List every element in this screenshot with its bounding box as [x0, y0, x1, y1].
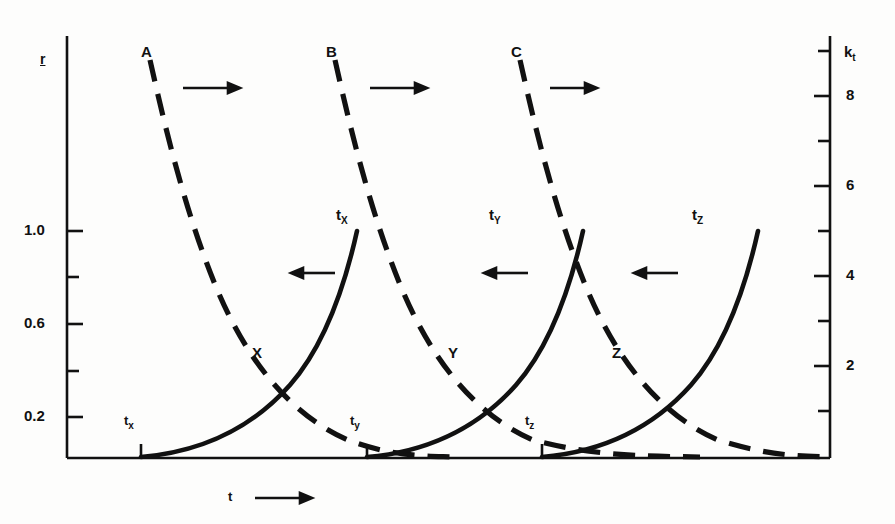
chart-svg [0, 0, 895, 524]
annotation-Y: Y [448, 345, 458, 360]
right-axis-ticks [814, 51, 830, 411]
left-axis-title: r [40, 52, 45, 66]
bottom-tick-label-tx-sub: x [128, 420, 134, 431]
curve-label-tZ-sub: Z [697, 215, 703, 226]
left-tick-label-3: 0.2 [24, 408, 45, 423]
arrow-right-B [370, 83, 427, 93]
dashed-curves-group [150, 60, 828, 457]
arrow-right-A [183, 83, 240, 93]
annotation-Z: Z [612, 345, 621, 360]
curve-C-path [520, 60, 828, 457]
bottom-tick-label-ty-sub: y [354, 420, 360, 431]
curve-label-tX-sub: X [341, 215, 348, 226]
arrow-right-C [550, 83, 597, 93]
curve-label-tY-sub: Y [494, 215, 501, 226]
curve-tX-path [141, 231, 357, 457]
bottom-tick-label-tz-sub: z [529, 420, 534, 431]
arrow-left-tZ [634, 268, 678, 278]
curve-label-B: B [326, 44, 337, 59]
right-tick-label-6: 6 [846, 177, 854, 192]
bottom-tick-label-tz: tz [525, 414, 534, 431]
arrow-left-tY [484, 268, 528, 278]
arrow-x-axis-title [255, 493, 312, 503]
right-tick-label-2: 2 [846, 357, 854, 372]
curve-A-path [150, 60, 452, 457]
curve-label-tX: tX [336, 207, 348, 226]
arrow-left-tX [291, 268, 335, 278]
bottom-tick-label-ty: ty [350, 414, 360, 431]
bottom-tick-label-tx: tx [124, 414, 134, 431]
left-tick-label-2: 0.6 [24, 315, 45, 330]
right-tick-label-8: 8 [846, 87, 854, 102]
right-arrows-group [183, 83, 597, 93]
left-tick-label-1: 1.0 [24, 222, 45, 237]
left-axis-ticks [67, 231, 83, 417]
right-axis-title-sub: t [852, 52, 855, 63]
curve-B-path [335, 60, 700, 457]
annotation-X: X [252, 345, 262, 360]
right-axis-title: kt [844, 44, 856, 63]
x-axis-title: t [228, 490, 232, 503]
axis-frame [67, 36, 830, 458]
right-tick-label-4: 4 [846, 267, 854, 282]
curve-label-C: C [511, 44, 522, 59]
figure-root: r 1.0 0.6 0.2 kt 8 6 4 2 A B C tX tY tZ … [0, 0, 895, 524]
curve-label-tZ: tZ [692, 207, 703, 226]
curve-label-A: A [141, 44, 152, 59]
curve-tY-path [367, 231, 583, 457]
curve-label-tY: tY [489, 207, 501, 226]
